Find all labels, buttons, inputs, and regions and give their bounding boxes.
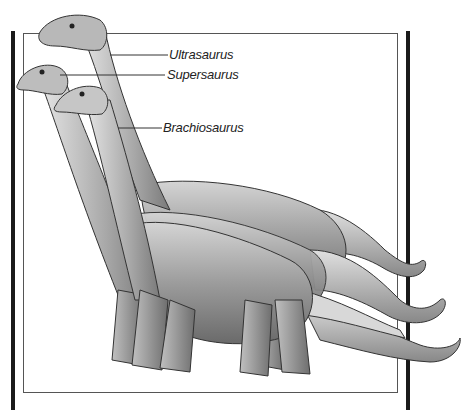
label-ultrasaurus: Ultrasaurus (169, 47, 233, 62)
dinosaur-illustration (0, 0, 474, 410)
label-brachiosaurus: Brachiosaurus (163, 120, 244, 135)
label-supersaurus: Supersaurus (167, 67, 239, 82)
